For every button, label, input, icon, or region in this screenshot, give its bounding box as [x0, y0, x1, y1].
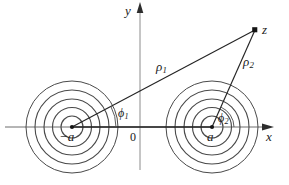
- rho1-label: ρ1: [156, 60, 167, 75]
- y-axis-label: y: [125, 4, 131, 17]
- phi2-subscript: 2: [224, 117, 228, 126]
- rho1-subscript: 1: [163, 65, 167, 75]
- origin-label: 0: [130, 131, 136, 143]
- rho2-subscript: 2: [250, 60, 254, 70]
- figure-canvas: [0, 0, 289, 185]
- bipolar-coordinates-figure: y x 0 z −a a ρ1 ρ2 ϕ1 ϕ2: [0, 0, 289, 185]
- right-pole-label: a: [207, 130, 214, 143]
- phi1-label: ϕ1: [118, 107, 129, 121]
- left-pole-label: −a: [59, 130, 74, 143]
- phi1-subscript: 1: [124, 112, 128, 121]
- rho2-label: ρ2: [243, 55, 254, 70]
- z-point-label: z: [262, 23, 267, 36]
- phi2-label: ϕ2: [218, 112, 229, 126]
- x-axis-label: x: [266, 130, 272, 143]
- y-axis-arrowhead: [137, 2, 144, 13]
- z-point-dot: [252, 27, 257, 32]
- rho1-symbol: ρ: [156, 59, 162, 74]
- rho2-symbol: ρ: [243, 54, 249, 69]
- phi1-arc: [111, 106, 116, 127]
